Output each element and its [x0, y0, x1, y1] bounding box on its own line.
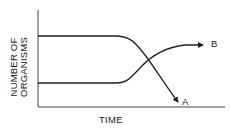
series-a-label: A [182, 96, 188, 107]
y-axis-label: NUMBER OF ORGANISMS [9, 22, 33, 112]
x-axis-label: TIME [99, 114, 123, 125]
series-b-label: B [211, 38, 217, 49]
axes [38, 10, 225, 107]
series-a-line [38, 36, 178, 102]
y-axis-label-line2: ORGANISMS [19, 22, 29, 112]
series-b-line [38, 45, 203, 83]
line-chart [0, 0, 230, 129]
